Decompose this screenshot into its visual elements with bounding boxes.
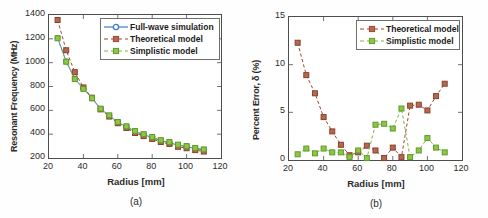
x-tick-label: 100 [174,161,198,171]
legend-label-theoretical-b: Theoretical model [386,24,459,34]
data-point-marker [416,102,421,107]
data-point-marker [364,156,369,161]
data-point-marker [408,103,413,108]
y-tick-label: 5 [252,105,285,115]
legend-marker-simplistic-b-icon [359,36,385,46]
data-point-marker [338,142,343,147]
series-line-simplistic-model [298,109,445,159]
x-axis-label-a: Radius [mm] [14,176,258,187]
data-point-marker [434,94,439,99]
panel-a: Resonant Frequency (MHz) Radius [mm] (a)… [0,0,244,218]
data-point-marker [434,145,439,150]
x-tick-label: 20 [276,163,300,173]
data-point-marker [55,18,60,23]
legend-marker-theoretical-b-icon [359,24,385,34]
data-point-marker [321,115,326,120]
x-tick-label: 40 [70,161,94,171]
data-point-marker [399,106,404,111]
data-point-marker [150,135,155,140]
y-tick-label: 200 [12,151,45,161]
data-point-marker [64,59,69,64]
subcaption-b: (b) [254,198,488,209]
data-point-marker [390,145,395,150]
y-tick-label: 800 [12,80,45,90]
y-tick-label: 1400 [12,8,45,18]
data-point-marker [330,150,335,155]
x-tick-label: 80 [139,161,163,171]
data-point-marker [347,155,352,160]
data-point-marker [416,148,421,153]
data-point-marker [55,36,60,41]
legend-item-simplistic-b: Simplistic model [359,35,456,47]
data-point-marker [141,132,146,137]
data-point-marker [408,155,413,160]
y-axis-label-b: Percent Error, δ (%) [251,60,261,140]
data-point-marker [295,152,300,157]
data-point-marker [124,124,129,129]
data-point-marker [107,113,112,118]
data-point-marker [98,106,103,111]
x-tick-label: 120 [449,163,473,173]
figure-container: Resonant Frequency (MHz) Radius [mm] (a)… [0,0,488,218]
x-tick-label: 40 [311,163,335,173]
data-point-marker [425,108,430,113]
legend-a: Full-wave simulation Theoretical model S… [100,18,220,60]
data-point-marker [184,144,189,149]
data-point-marker [72,70,77,75]
data-point-marker [304,146,309,151]
panel-b: Percent Error, δ (%) Radius [mm] (b) The… [244,0,488,218]
y-tick-label: 15 [252,10,285,20]
data-point-marker [321,146,326,151]
legend-item-fullwave: Full-wave simulation [103,21,216,33]
x-tick-label: 60 [105,161,129,171]
y-tick-label: 600 [12,103,45,113]
data-point-marker [373,148,378,153]
y-tick-label: 0 [252,153,285,163]
x-tick-label: 80 [380,163,404,173]
data-point-marker [442,150,447,155]
data-point-marker [90,96,95,101]
legend-item-theoretical-b: Theoretical model [359,23,456,35]
data-point-marker [193,145,198,150]
y-tick-label: 400 [12,127,45,137]
data-point-marker [304,73,309,78]
data-point-marker [399,155,404,160]
data-point-marker [382,156,387,161]
data-point-marker [312,151,317,156]
data-point-marker [364,143,369,148]
data-point-marker [338,150,343,155]
data-point-marker [382,121,387,126]
data-point-marker [295,40,300,45]
y-tick-label: 10 [252,58,285,68]
data-point-marker [442,81,447,86]
data-point-marker [158,138,163,143]
legend-label-simplistic-b: Simplistic model [386,36,454,46]
data-point-marker [330,129,335,134]
legend-label-simplistic-a: Simplistic model [130,46,198,56]
legend-item-simplistic-a: Simplistic model [103,45,216,57]
y-tick-label: 1000 [12,56,45,66]
data-point-marker [356,148,361,153]
legend-marker-simplistic-icon [103,46,129,56]
data-point-marker [201,147,206,152]
legend-label-theoretical-a: Theoretical model [130,34,203,44]
x-tick-label: 120 [208,161,232,171]
y-tick-label: 1200 [12,32,45,42]
legend-label-fullwave: Full-wave simulation [130,22,214,32]
x-axis-label-b: Radius [mm] [254,178,488,189]
data-point-marker [312,91,317,96]
data-point-marker [167,140,172,145]
x-tick-label: 20 [36,161,60,171]
data-point-marker [176,142,181,147]
subcaption-a: (a) [14,196,258,207]
data-point-marker [81,86,86,91]
data-point-marker [390,126,395,131]
data-point-marker [72,77,77,82]
x-tick-label: 60 [345,163,369,173]
data-point-marker [115,120,120,125]
data-point-marker [425,136,430,141]
legend-marker-fullwave-icon [103,22,129,32]
data-point-marker [64,48,69,53]
data-point-marker [133,129,138,134]
legend-item-theoretical-a: Theoretical model [103,33,216,45]
